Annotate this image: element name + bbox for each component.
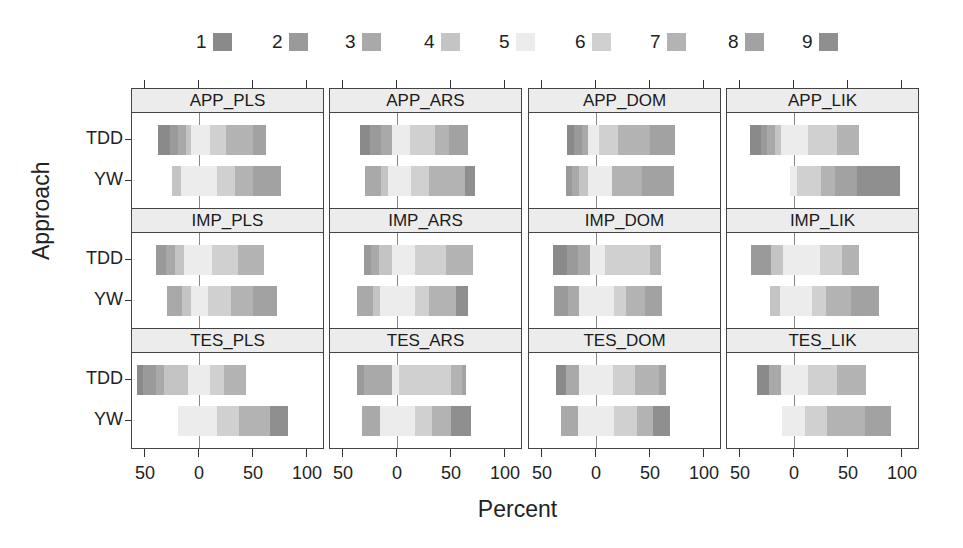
bar-segment-yw-level-6 — [415, 406, 432, 436]
bar-segment-tdd-level-3 — [578, 245, 590, 275]
x-tick — [901, 449, 902, 457]
legend-label: 6 — [575, 31, 586, 53]
bar-segment-yw-level-6 — [411, 166, 430, 196]
bar-segment-yw-level-7 — [432, 406, 452, 436]
bar-segment-yw-level-7 — [612, 166, 643, 196]
bar-segment-yw-level-7 — [827, 406, 865, 436]
x-tick-top — [342, 80, 343, 88]
x-tick-label: 50 — [426, 463, 476, 484]
bar-segment-yw-level-8 — [253, 166, 281, 196]
y-axis-title: Approach — [28, 162, 55, 260]
panel-app-lik: APP_LIK — [726, 88, 919, 209]
bar-segment-yw-level-5 — [780, 286, 790, 316]
x-tick-label: 50 — [715, 463, 765, 484]
bar-segment-tdd-level-6 — [820, 245, 842, 275]
bar-segment-tdd-level-2 — [567, 245, 578, 275]
y-tick — [125, 300, 131, 301]
bar-segment-tdd-level-6 — [415, 245, 446, 275]
bar-segment-tdd-level-5 — [392, 245, 416, 275]
bar-segment-tdd-level-7 — [238, 245, 264, 275]
panel-strip-title: IMP_DOM — [529, 209, 720, 233]
bar-segment-tdd-level-2 — [751, 245, 772, 275]
panel-strip-title: APP_ARS — [330, 89, 521, 113]
y-category-label-yw: YW — [63, 409, 123, 430]
bar-segment-tdd-level-2 — [143, 365, 156, 395]
bar-segment-tdd-level-8 — [449, 125, 468, 155]
bar-segment-tdd-level-8 — [659, 365, 666, 395]
bar-segment-tdd-level-7 — [435, 125, 450, 155]
bar-segment-yw-level-5 — [178, 406, 189, 436]
legend-swatch — [592, 33, 611, 51]
x-tick-label: 0 — [769, 463, 819, 484]
y-tick — [125, 420, 131, 421]
bar-segment-tdd-level-3 — [166, 245, 176, 275]
panel-tes-pls: TES_PLS — [131, 328, 324, 449]
bar-segment-yw-level-5 — [380, 286, 416, 316]
legend-item: 2 — [272, 30, 308, 54]
bar-segment-yw-level-3 — [561, 406, 578, 436]
legend-label: 5 — [499, 31, 510, 53]
legend-label: 4 — [424, 31, 435, 53]
x-tick — [793, 449, 794, 457]
legend-swatch — [362, 33, 381, 51]
x-tick-top — [793, 80, 794, 88]
bar-segment-tdd-level-1 — [757, 365, 769, 395]
legend-swatch — [819, 33, 838, 51]
y-category-label-tdd: TDD — [63, 368, 123, 389]
bar-segment-tdd-level-2 — [370, 125, 381, 155]
x-tick-top — [703, 80, 704, 88]
x-tick-top — [450, 80, 451, 88]
bar-segment-yw-level-5 — [782, 406, 805, 436]
y-tick — [125, 259, 131, 260]
legend-label: 3 — [345, 31, 356, 53]
x-tick — [739, 449, 740, 457]
bar-segment-yw-level-4 — [770, 286, 780, 316]
legend-swatch — [667, 33, 686, 51]
legend-item: 4 — [424, 30, 460, 54]
panel-strip-title: IMP_ARS — [330, 209, 521, 233]
y-category-label-tdd: TDD — [63, 248, 123, 269]
bar-segment-tdd-level-1 — [556, 365, 566, 395]
legend-label: 1 — [196, 31, 207, 53]
bar-segment-yw-level-9 — [653, 406, 670, 436]
legend-item: 6 — [575, 30, 611, 54]
x-tick-label: 0 — [174, 463, 224, 484]
bar-segment-tdd-level-6 — [605, 245, 651, 275]
panel-strip-title: TES_ARS — [330, 329, 521, 353]
bar-segment-yw-level-8 — [835, 166, 857, 196]
bar-segment-tdd-level-6 — [808, 125, 838, 155]
bar-segment-tdd-level-7 — [224, 365, 246, 395]
x-tick — [649, 449, 650, 457]
legend-label: 9 — [802, 31, 813, 53]
bar-segment-yw-level-6 — [217, 406, 239, 436]
legend-swatch — [516, 33, 535, 51]
panel-strip-title: IMP_PLS — [132, 209, 323, 233]
panel-tes-ars: TES_ARS — [329, 328, 522, 449]
bar-segment-yw-level-7 — [429, 166, 465, 196]
x-tick — [252, 449, 253, 457]
x-tick — [144, 449, 145, 457]
x-tick-label: 50 — [517, 463, 567, 484]
x-tick-top — [396, 80, 397, 88]
bar-segment-tdd-level-5 — [588, 125, 599, 155]
bar-segment-yw-level-5 — [578, 406, 615, 436]
bar-segment-yw-level-3 — [357, 286, 374, 316]
panel-app-pls: APP_PLS — [131, 88, 324, 209]
bar-segment-tdd-level-6 — [613, 365, 635, 395]
bar-segment-yw-level-7 — [231, 286, 253, 316]
bar-segment-tdd-level-1 — [553, 245, 568, 275]
x-tick-label: 0 — [571, 463, 621, 484]
x-tick — [847, 449, 848, 457]
bar-segment-tdd-level-1 — [158, 125, 170, 155]
panel-imp-pls: IMP_PLS — [131, 208, 324, 329]
x-tick — [198, 449, 199, 457]
bar-segment-yw-level-3 — [167, 286, 183, 316]
bar-segment-tdd-level-4 — [771, 245, 783, 275]
bar-segment-yw-level-6 — [812, 286, 827, 316]
bar-segment-tdd-level-6 — [808, 365, 838, 395]
legend-swatch — [745, 33, 764, 51]
panel-imp-ars: IMP_ARS — [329, 208, 522, 329]
panel-strip-title: TES_PLS — [132, 329, 323, 353]
bar-segment-yw-level-2 — [554, 286, 569, 316]
bar-segment-yw-level-7 — [429, 286, 457, 316]
